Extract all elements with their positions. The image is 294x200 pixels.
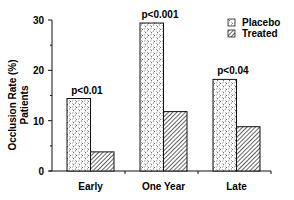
bar-placebo-one-year (140, 23, 164, 171)
y-tick-label: 0 (38, 166, 44, 177)
bar-placebo-early (67, 99, 91, 171)
legend-label-placebo: Placebo (242, 17, 280, 28)
p-value-annotation: p<0.001 (141, 9, 178, 20)
bar-chart: Occlusion Rate (%) Patients 0102030 p<0.… (0, 0, 294, 200)
p-value-annotation: p<0.01 (71, 85, 103, 96)
x-axis-categories: EarlyOne YearLate (78, 181, 247, 192)
x-category-label: Late (226, 181, 247, 192)
legend-label-treated: Treated (242, 28, 278, 39)
bar-treated-early (91, 152, 115, 171)
y-axis-label: Occlusion Rate (%) Patients (7, 59, 30, 150)
y-tick-label: 30 (33, 15, 45, 26)
x-category-label: One Year (142, 181, 185, 192)
x-category-label: Early (78, 181, 103, 192)
bar-treated-late (237, 127, 261, 171)
bar-treated-one-year (164, 112, 188, 171)
y-tick-label: 10 (33, 116, 45, 127)
legend: Placebo Treated (228, 17, 280, 39)
legend-swatch-treated (228, 30, 235, 37)
y-axis-label-line2: Patients (19, 85, 30, 124)
bar-placebo-late (213, 79, 237, 171)
p-value-annotation: p<0.04 (217, 65, 249, 76)
y-tick-label: 20 (33, 65, 45, 76)
y-axis-label-line1: Occlusion Rate (%) (7, 59, 18, 150)
legend-swatch-placebo (228, 19, 235, 26)
bars (67, 23, 260, 171)
